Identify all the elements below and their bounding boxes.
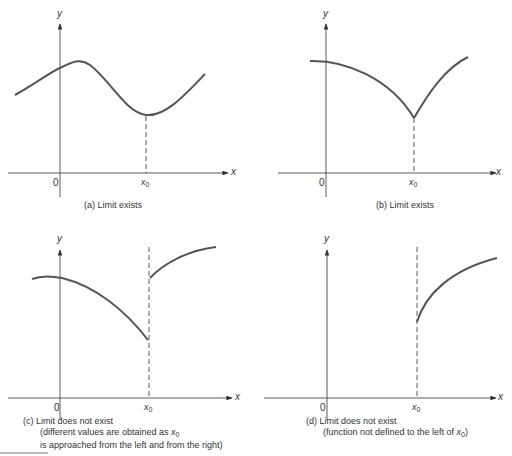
panel-c-y-label: y (57, 233, 62, 244)
panel-b-curve-right (414, 57, 468, 118)
panel-d-y-label: y (324, 233, 329, 244)
panel-a-origin-label: 0 (53, 177, 59, 188)
panel-a-y-label: y (57, 8, 62, 19)
panel-a-graph (8, 24, 228, 197)
panel-c-caption-line1: (c) Limit does not exist (23, 416, 223, 427)
panel-d-caption-line2: (function not defined to the left of x0) (306, 427, 468, 440)
panel-a-x-label: x (231, 166, 236, 177)
panel-c-origin-label: 0 (54, 402, 60, 413)
panel-c-curve-right (150, 247, 216, 278)
caption-end: ) (465, 427, 468, 437)
panel-d-x0-label: x0 (412, 402, 420, 413)
panel-a-caption: (a) Limit exists (84, 200, 142, 211)
panel-b-x-label: x (496, 166, 501, 177)
panel-c-caption-line2: (different values are obtained as x0 (23, 427, 223, 440)
x0-sub: 0 (414, 181, 418, 188)
panel-d-origin-label: 0 (320, 402, 326, 413)
panel-b-graph (278, 24, 496, 197)
limits-figure (0, 0, 512, 456)
panel-b-origin-label: 0 (319, 177, 325, 188)
panel-d-graph (264, 247, 497, 420)
panel-c-x0-label: x0 (144, 402, 152, 413)
panel-b-caption: (b) Limit exists (376, 200, 434, 211)
panel-b-x0-label: x0 (409, 177, 417, 188)
caption-text: (function not defined to the left of (323, 427, 457, 437)
panel-d-caption-line1: (d) Limit does not exist (306, 416, 468, 427)
panel-d-curve (417, 258, 497, 322)
panel-c-caption-line3: is approached from the left and from the… (23, 440, 223, 451)
caption-sub: 0 (175, 431, 179, 438)
x0-sub: 0 (417, 406, 421, 413)
x0-sub: 0 (146, 181, 150, 188)
panel-d-caption: (d) Limit does not exist (function not d… (306, 416, 468, 440)
caption-text: (different values are obtained as (40, 427, 171, 437)
panel-d-x-label: x (498, 391, 503, 402)
panel-a-x0-label: x0 (141, 177, 149, 188)
panel-a-curve (15, 61, 205, 115)
figure-label-bar (0, 452, 48, 454)
x0-sub: 0 (149, 406, 153, 413)
panel-b-y-label: y (323, 8, 328, 19)
panel-c-curve-left (32, 276, 148, 340)
panel-c-caption: (c) Limit does not exist (different valu… (23, 416, 223, 451)
panel-c-graph (8, 247, 232, 420)
panel-c-x-label: x (235, 391, 240, 402)
